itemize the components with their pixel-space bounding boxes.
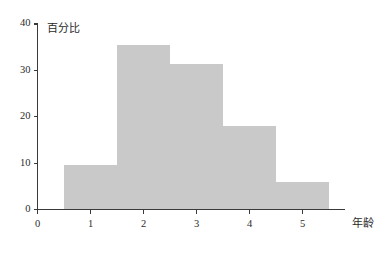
x-tick-label: 5 xyxy=(300,218,305,229)
histogram-bar xyxy=(64,165,117,209)
histogram-bar xyxy=(276,182,329,210)
x-tick-label: 3 xyxy=(194,218,199,229)
y-tick-label: 40 xyxy=(20,17,31,28)
x-tick-label: 1 xyxy=(88,218,93,229)
histogram-bar xyxy=(223,126,276,210)
y-axis-title: 百分比 xyxy=(47,22,80,34)
y-tick-label: 10 xyxy=(20,157,31,168)
x-axis-title: 年龄 xyxy=(352,216,374,229)
y-tick-label: 20 xyxy=(20,110,31,121)
x-tick-label: 0 xyxy=(35,218,40,229)
histogram-bar xyxy=(117,45,170,210)
histogram-bar xyxy=(170,64,223,209)
x-tick-label: 4 xyxy=(247,218,253,229)
histogram-chart: 010203040 012345 百分比 年龄 xyxy=(0,0,385,255)
y-tick-label: 0 xyxy=(25,203,30,214)
chart-canvas: 010203040 012345 百分比 年龄 xyxy=(0,0,385,255)
y-tick-label: 30 xyxy=(20,64,31,75)
x-tick-label: 2 xyxy=(141,218,146,229)
